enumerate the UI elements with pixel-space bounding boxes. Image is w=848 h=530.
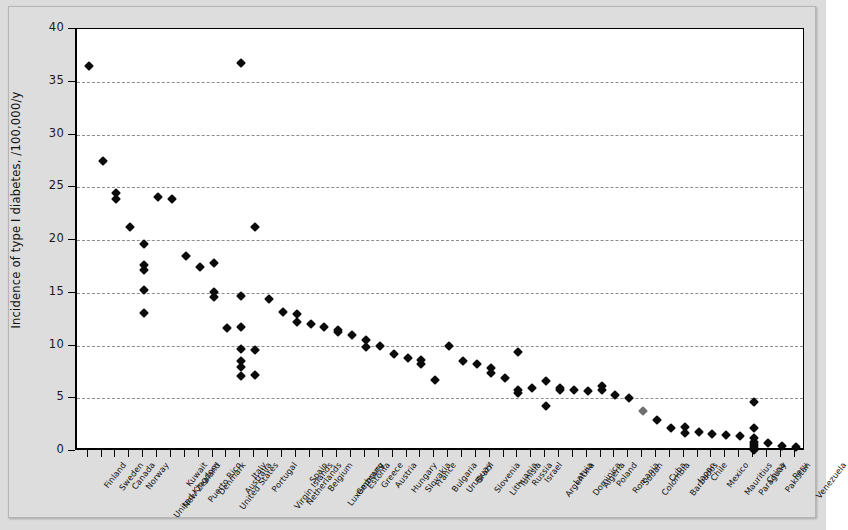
x-tick-mark — [613, 450, 614, 457]
data-point — [236, 344, 246, 354]
x-tick-mark — [350, 450, 351, 457]
data-point — [84, 61, 94, 71]
x-tick-mark — [503, 450, 504, 457]
data-point — [721, 430, 731, 440]
x-tick-mark — [156, 450, 157, 457]
data-point — [680, 428, 690, 438]
data-point — [735, 431, 745, 441]
data-point — [347, 330, 357, 340]
data-point — [749, 398, 759, 408]
y-tick-label: 5 — [56, 389, 64, 403]
data-point — [486, 363, 496, 373]
data-point — [597, 381, 607, 391]
data-point — [333, 327, 343, 337]
x-tick-mark — [239, 450, 240, 457]
data-point — [361, 335, 371, 345]
x-tick-mark — [101, 450, 102, 457]
data-point — [236, 58, 246, 68]
data-point — [153, 192, 163, 202]
data-point — [652, 415, 662, 425]
y-tick-mark — [68, 239, 75, 240]
gridline — [77, 187, 803, 188]
data-point — [513, 347, 523, 357]
data-point — [209, 258, 219, 268]
data-point — [98, 156, 108, 166]
data-point — [513, 388, 523, 398]
data-point — [444, 341, 454, 351]
x-tick-label: Venezuela — [813, 460, 848, 500]
data-point — [430, 375, 440, 385]
x-tick-mark — [87, 450, 88, 457]
y-tick-label: 35 — [49, 73, 64, 87]
data-point — [610, 390, 620, 400]
data-point — [694, 427, 704, 437]
data-point — [319, 322, 329, 332]
data-point — [583, 386, 593, 396]
x-tick-mark — [738, 450, 739, 457]
y-tick-label: 40 — [49, 20, 64, 34]
y-tick-label: 20 — [49, 231, 64, 245]
gridlines — [77, 29, 803, 448]
data-point — [763, 438, 773, 448]
data-point — [416, 360, 426, 370]
gridline — [77, 135, 803, 136]
y-tick-mark — [68, 397, 75, 398]
data-point — [597, 385, 607, 395]
data-point — [555, 383, 565, 393]
x-tick-mark — [406, 450, 407, 457]
data-point — [638, 406, 648, 416]
data-point — [250, 370, 260, 380]
x-tick-mark — [586, 450, 587, 457]
data-point — [472, 360, 482, 370]
x-tick-mark — [212, 450, 213, 457]
data-point — [292, 317, 302, 327]
x-tick-mark — [600, 450, 601, 457]
y-tick-mark — [68, 81, 75, 82]
data-point — [749, 433, 759, 443]
x-tick-mark — [170, 450, 171, 457]
gridline — [77, 398, 803, 399]
data-point — [139, 308, 149, 318]
x-tick-mark — [655, 450, 656, 457]
data-point — [569, 385, 579, 395]
data-point — [167, 194, 177, 204]
x-tick-mark — [516, 450, 517, 457]
x-tick-mark — [544, 450, 545, 457]
gridline — [77, 240, 803, 241]
x-tick-mark — [128, 450, 129, 457]
y-tick-mark — [68, 345, 75, 346]
gridline — [77, 82, 803, 83]
data-point — [236, 371, 246, 381]
data-point — [513, 385, 523, 395]
x-tick-mark — [530, 450, 531, 457]
data-point — [125, 222, 135, 232]
data-point — [250, 345, 260, 355]
x-tick-mark — [433, 450, 434, 457]
data-point — [278, 307, 288, 317]
data-point — [209, 292, 219, 302]
x-tick-mark — [724, 450, 725, 457]
y-tick-label: 10 — [49, 337, 64, 351]
data-point — [139, 239, 149, 249]
data-point — [292, 309, 302, 319]
x-tick-mark — [322, 450, 323, 457]
x-tick-mark — [558, 450, 559, 457]
data-point — [500, 373, 510, 383]
data-point — [264, 294, 274, 304]
x-tick-mark — [295, 450, 296, 457]
data-point — [707, 429, 717, 439]
data-point — [749, 423, 759, 433]
y-tick-label: 30 — [49, 126, 64, 140]
gridline — [77, 346, 803, 347]
data-point — [555, 385, 565, 395]
data-point — [181, 251, 191, 261]
x-tick-mark — [225, 450, 226, 457]
data-point — [236, 362, 246, 372]
data-point — [250, 222, 260, 232]
data-point — [139, 285, 149, 295]
x-tick-mark — [198, 450, 199, 457]
data-point — [749, 439, 759, 449]
data-point — [361, 342, 371, 352]
y-tick-mark — [68, 450, 75, 451]
x-tick-mark — [683, 450, 684, 457]
